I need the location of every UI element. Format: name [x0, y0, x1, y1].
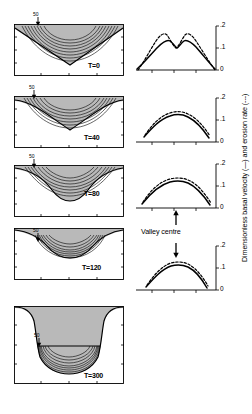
velocity-erosion-svg-t0: [136, 20, 222, 78]
velocity-erosion-svg-t120: [136, 240, 222, 298]
time-label-t80: T=80: [84, 190, 99, 197]
cross-section-svg-t40: [14, 96, 124, 148]
time-label-t0: T=0: [88, 62, 100, 69]
ytick-2-t0: .2: [220, 21, 225, 28]
ytick-0-t80: 0: [220, 203, 224, 210]
velocity-erosion-svg-t40: [136, 92, 222, 150]
velocity-erosion-panel-t80: [136, 158, 222, 216]
ytick-0-t120: 0: [220, 285, 224, 292]
ytick-0-t40: 0: [220, 137, 224, 144]
time-label-t40: T=40: [84, 134, 99, 141]
velocity-erosion-panel-t120: [136, 240, 222, 298]
y-axis-label: Dimensionless basal velocity (—) and ero…: [240, 94, 249, 262]
contour-arrow-t0: [34, 17, 42, 26]
ytick-2-t80: .2: [220, 159, 225, 166]
cross-section-panel-t80: [14, 165, 124, 217]
figure-container: 50 T=0 0 .1 .2: [0, 0, 252, 414]
velocity-erosion-panel-t0: [136, 20, 222, 78]
cross-section-panel-t40: [14, 96, 124, 148]
contour-arrow-t300: [35, 338, 43, 347]
cross-section-svg-t0: [14, 24, 124, 76]
time-label-t300: T=300: [84, 372, 103, 379]
ytick-1-t0: .1: [220, 43, 225, 50]
ytick-2-t40: .2: [220, 93, 225, 100]
velocity-erosion-panel-t40: [136, 92, 222, 150]
contour-arrow-t120: [34, 233, 42, 242]
valley-centre-label: Valley centre: [141, 227, 181, 236]
cross-section-panel-t120: [14, 228, 124, 280]
ytick-1-t80: .1: [220, 181, 225, 188]
ytick-0-t0: 0: [220, 65, 224, 72]
cross-section-panel-t0: [14, 24, 124, 76]
contour-arrow-t80: [30, 159, 38, 168]
cross-section-svg-t80: [14, 165, 124, 217]
ytick-1-t120: .1: [220, 263, 225, 270]
cross-section-panel-t300: [14, 306, 124, 384]
contour-arrow-t40: [30, 90, 38, 99]
cross-section-svg-t300: [14, 306, 124, 384]
cross-section-svg-t120: [14, 228, 124, 280]
ytick-1-t40: .1: [220, 115, 225, 122]
ytick-2-t120: .2: [220, 241, 225, 248]
velocity-erosion-svg-t80: [136, 158, 222, 216]
time-label-t120: T=120: [82, 264, 101, 271]
